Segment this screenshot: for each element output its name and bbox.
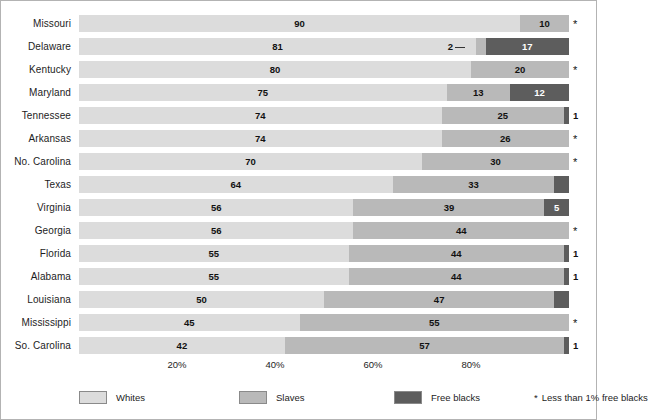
outside-value-label: 1 bbox=[573, 269, 578, 284]
legend-footnote: *Less than 1% free blacks bbox=[534, 391, 648, 404]
segment-slaves: 2 bbox=[476, 38, 486, 55]
segment-slaves: 10 bbox=[520, 15, 569, 32]
segment-value: 55 bbox=[208, 248, 219, 259]
legend-swatch bbox=[79, 391, 107, 404]
legend-item-slaves: Slaves bbox=[239, 391, 305, 404]
asterisk-marker: * bbox=[573, 17, 577, 31]
x-axis-tick-label: 20% bbox=[167, 359, 186, 370]
segment-whites: 42 bbox=[79, 337, 285, 354]
value-callout: 2 bbox=[448, 39, 465, 54]
bar-row: Louisiana50473 bbox=[79, 291, 569, 308]
segment-value: 17 bbox=[522, 41, 533, 52]
bar-row: Virginia56395 bbox=[79, 199, 569, 216]
segment-value: 25 bbox=[498, 110, 509, 121]
outside-value-label: 1 bbox=[573, 246, 578, 261]
bar-row: No. Carolina7030* bbox=[79, 153, 569, 170]
bar-row-label: Virginia bbox=[37, 200, 71, 215]
legend-label: Whites bbox=[116, 392, 145, 403]
legend-label: Free blacks bbox=[431, 392, 480, 403]
segment-slaves: 25 bbox=[442, 107, 565, 124]
segment-whites: 80 bbox=[79, 61, 471, 78]
segment-whites: 45 bbox=[79, 314, 300, 331]
segment-free-blacks: 3 bbox=[554, 176, 569, 193]
segment-value: 75 bbox=[257, 87, 268, 98]
stacked-bar: 4555 bbox=[79, 314, 569, 331]
segment-slaves: 20 bbox=[471, 61, 569, 78]
bar-row-label: Florida bbox=[40, 246, 71, 261]
segment-value: 33 bbox=[468, 179, 479, 190]
segment-value: 47 bbox=[434, 294, 445, 305]
segment-free-blacks: 5 bbox=[544, 199, 569, 216]
bar-row-label: So. Carolina bbox=[15, 338, 71, 353]
legend-swatch bbox=[394, 391, 422, 404]
stacked-bar: 8020 bbox=[79, 61, 569, 78]
stacked-bar-plot-area: Missouri9010*Delaware812172Kentucky8020*… bbox=[79, 15, 569, 355]
segment-slaves: 44 bbox=[349, 245, 565, 262]
bar-row-label: Arkansas bbox=[29, 131, 72, 146]
bar-row-label: Delaware bbox=[28, 39, 71, 54]
segment-slaves: 13 bbox=[447, 84, 511, 101]
bar-row: Arkansas7426* bbox=[79, 130, 569, 147]
segment-value: 56 bbox=[211, 202, 222, 213]
bar-row-label: Alabama bbox=[31, 269, 71, 284]
bar-row-label: No. Carolina bbox=[14, 154, 71, 169]
bar-row: Mississippi4555* bbox=[79, 314, 569, 331]
segment-whites: 56 bbox=[79, 199, 353, 216]
legend-swatch bbox=[239, 391, 267, 404]
segment-slaves: 33 bbox=[393, 176, 555, 193]
asterisk-marker: * bbox=[573, 224, 577, 238]
segment-slaves: 26 bbox=[442, 130, 569, 147]
bar-row-label: Texas bbox=[44, 177, 71, 192]
asterisk-marker: * bbox=[573, 132, 577, 146]
segment-value: 44 bbox=[456, 225, 467, 236]
stacked-bar: 5544 bbox=[79, 245, 569, 262]
segment-whites: 50 bbox=[79, 291, 324, 308]
stacked-bar: 56395 bbox=[79, 199, 569, 216]
segment-free-blacks: 12 bbox=[510, 84, 569, 101]
segment-value: 50 bbox=[196, 294, 207, 305]
segment-value: 81 bbox=[272, 41, 283, 52]
segment-value: 57 bbox=[419, 340, 430, 351]
segment-slaves: 30 bbox=[422, 153, 569, 170]
segment-slaves: 44 bbox=[353, 222, 569, 239]
segment-value: 80 bbox=[270, 64, 281, 75]
segment-free-blacks bbox=[564, 337, 569, 354]
segment-whites: 74 bbox=[79, 130, 442, 147]
segment-value: 20 bbox=[515, 64, 526, 75]
segment-free-blacks bbox=[564, 107, 569, 124]
segment-whites: 55 bbox=[79, 268, 349, 285]
segment-value: 44 bbox=[451, 248, 462, 259]
stacked-bar: 81217 bbox=[79, 38, 569, 55]
asterisk-marker: * bbox=[573, 316, 577, 330]
segment-value: 45 bbox=[184, 317, 195, 328]
segment-value: 74 bbox=[255, 110, 266, 121]
asterisk-marker: * bbox=[573, 63, 577, 77]
segment-value: 90 bbox=[294, 18, 305, 29]
bar-row: Texas64333 bbox=[79, 176, 569, 193]
segment-whites: 90 bbox=[79, 15, 520, 32]
chart-legend: WhitesSlavesFree blacks*Less than 1% fre… bbox=[79, 391, 579, 409]
x-axis: 20%40%60%80% bbox=[79, 359, 569, 373]
bar-row: Missouri9010* bbox=[79, 15, 569, 32]
legend-item-whites: Whites bbox=[79, 391, 145, 404]
segment-slaves: 57 bbox=[285, 337, 564, 354]
segment-value: 26 bbox=[500, 133, 511, 144]
bar-row: Delaware812172 bbox=[79, 38, 569, 55]
bar-row: Florida55441 bbox=[79, 245, 569, 262]
segment-whites: 74 bbox=[79, 107, 442, 124]
bar-row-label: Mississippi bbox=[22, 315, 71, 330]
segment-value: 30 bbox=[490, 156, 501, 167]
bar-row: Georgia5644* bbox=[79, 222, 569, 239]
legend-label: Slaves bbox=[276, 392, 305, 403]
segment-value: 64 bbox=[231, 179, 242, 190]
stacked-bar: 5544 bbox=[79, 268, 569, 285]
segment-value: 10 bbox=[539, 18, 550, 29]
bar-row: So. Carolina42571 bbox=[79, 337, 569, 354]
segment-value: 12 bbox=[534, 87, 545, 98]
bar-row-label: Maryland bbox=[29, 85, 71, 100]
segment-value: 56 bbox=[211, 225, 222, 236]
segment-free-blacks: 3 bbox=[554, 291, 569, 308]
x-axis-tick-label: 40% bbox=[265, 359, 284, 370]
segment-slaves: 47 bbox=[324, 291, 554, 308]
